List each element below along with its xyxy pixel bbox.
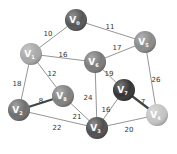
edge-weight-label: 16: [59, 51, 68, 59]
node-v6: V6: [84, 51, 106, 73]
edge-weight-label: 19: [105, 70, 114, 78]
edge-weight-label: 8: [39, 97, 43, 105]
node-v5: V5: [134, 31, 156, 53]
node-v1: V1: [20, 43, 42, 65]
edge-weight-label: 24: [84, 94, 93, 102]
edge-weight-label: 17: [113, 44, 122, 52]
edge-weight-label: 10: [44, 30, 53, 38]
graph-diagram: 1011161718121926824212216720 V0V1V6V5V2V…: [0, 0, 177, 154]
node-v4: V4: [146, 104, 168, 126]
edge-weight-label: 20: [125, 126, 134, 134]
node-v7: V7: [113, 79, 135, 101]
edge-weight-label: 12: [48, 70, 57, 78]
edge-weight-label: 21: [73, 113, 82, 121]
edge-weight-label: 11: [106, 23, 115, 31]
edge-weight-label: 22: [53, 124, 62, 132]
node-v3: V3: [86, 117, 108, 139]
node-v2: V2: [8, 99, 30, 121]
edge-weight-label: 26: [152, 76, 161, 84]
edge-weight-label: 16: [102, 106, 111, 114]
edge-weight-label: 7: [141, 98, 145, 106]
edge-weight-label: 18: [13, 80, 22, 88]
node-v0: V0: [65, 9, 87, 31]
node-v8: V8: [52, 85, 74, 107]
